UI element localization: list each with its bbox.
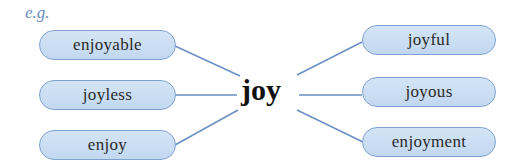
word-node-enjoy: enjoy: [39, 130, 176, 160]
word-node-enjoyment: enjoyment: [362, 127, 496, 157]
word-node-joyous: joyous: [362, 77, 496, 107]
word-node-enjoyable: enjoyable: [39, 30, 176, 60]
connector-enjoyment: [297, 110, 363, 142]
center-word: joy: [241, 73, 281, 107]
connector-joyful: [297, 42, 362, 75]
word-node-joyless: joyless: [39, 80, 176, 110]
connector-enjoyable: [175, 46, 240, 76]
word-node-joyful: joyful: [362, 25, 496, 55]
connector-enjoy: [175, 110, 238, 145]
